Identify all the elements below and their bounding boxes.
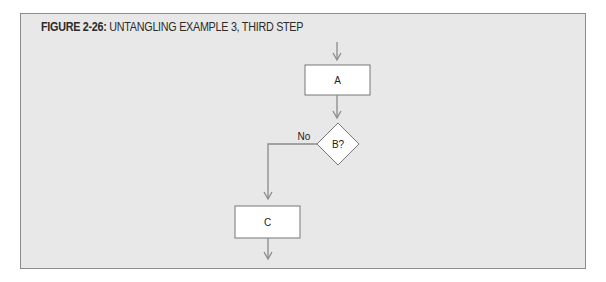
node-c-label: C	[264, 217, 271, 228]
arrow-a-to-b	[333, 95, 341, 118]
arrow-c-exit	[264, 238, 272, 259]
node-b-label: B?	[332, 139, 345, 150]
decision-node-b: B?	[317, 123, 359, 165]
node-a-label: A	[334, 75, 341, 86]
process-node-c: C	[235, 206, 300, 238]
process-node-a: A	[305, 65, 370, 95]
arrow-entry-to-a	[333, 42, 341, 60]
flowchart: A B? No C	[0, 0, 606, 282]
edge-label-no: No	[298, 131, 311, 142]
arrow-b-to-c-no: No	[264, 131, 317, 199]
